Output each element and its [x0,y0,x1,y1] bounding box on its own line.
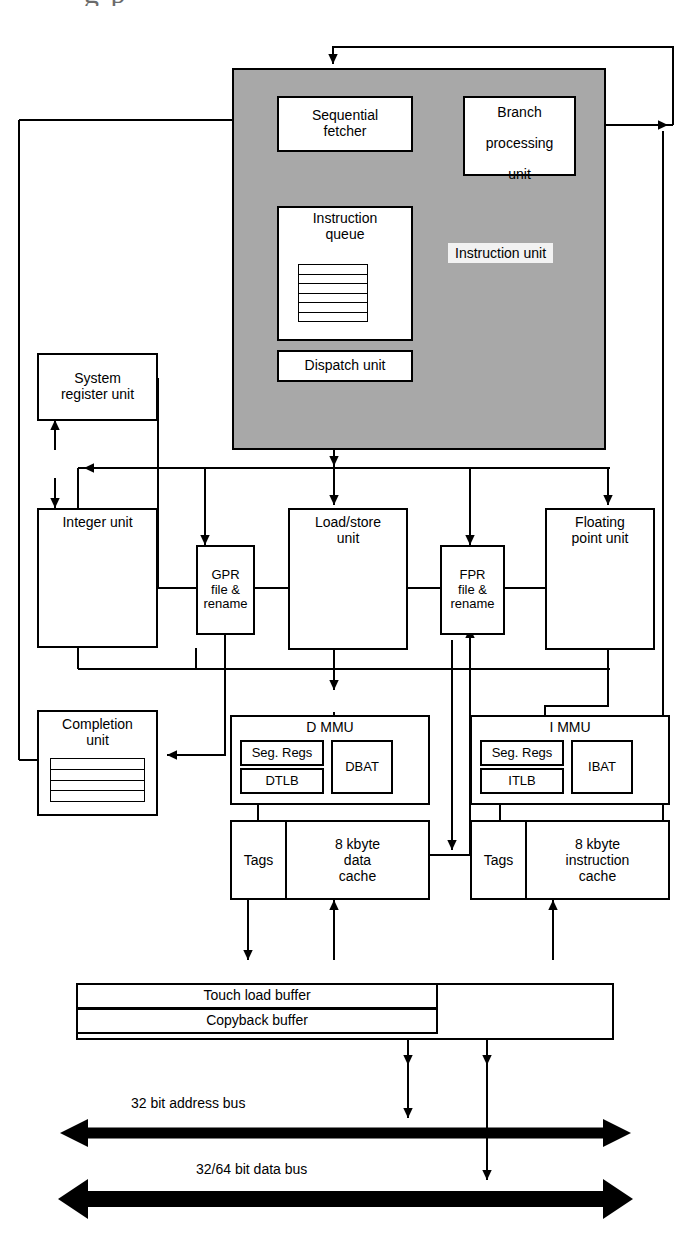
d-mmu-seg-regs-label: Seg. Regs [252,746,313,760]
branch-processing-unit-box[interactable]: Branch processing unit [463,96,576,176]
i-mmu-seg-regs-box[interactable]: Seg. Regs [480,740,564,766]
system-register-unit-label: System register unit [61,371,134,402]
address-bus-arrow [60,1119,631,1147]
i-tags-box[interactable]: Tags [470,820,527,900]
fpr-file-rename-box[interactable]: FPR file & rename [440,545,505,635]
dbat-box[interactable]: DBAT [331,740,393,794]
load-store-unit-box[interactable]: Load/store unit [288,508,408,650]
instruction-unit-label: Instruction unit [448,243,553,263]
d-mmu-label: D MMU [306,720,353,736]
d-tags-label: Tags [244,852,274,868]
load-store-unit-label: Load/store unit [315,513,381,546]
dispatch-unit-box[interactable]: Dispatch unit [277,350,413,382]
system-register-unit-box[interactable]: System register unit [37,353,158,421]
d-tags-box[interactable]: Tags [230,820,287,900]
dispatch-unit-label: Dispatch unit [305,358,386,374]
fpr-file-rename-label: FPR file & rename [450,568,494,612]
itlb-box[interactable]: ITLB [480,768,564,794]
copyback-buffer-label: Copyback buffer [206,1013,308,1029]
dtlb-box[interactable]: DTLB [240,768,324,794]
copyback-buffer-box[interactable]: Copyback buffer [76,1008,438,1034]
instruction-queue-label: Instruction queue [313,211,378,242]
instruction-queue-slots [298,264,368,322]
data-bus-arrow [58,1179,633,1219]
floating-point-unit-label: Floating point unit [572,513,629,546]
d-mmu-seg-regs-box[interactable]: Seg. Regs [240,740,324,766]
itlb-label: ITLB [508,774,535,788]
touch-load-buffer-box[interactable]: Touch load buffer [76,983,438,1009]
branch-processing-unit-label: Branch processing unit [486,89,554,183]
ibat-label: IBAT [588,760,616,774]
completion-unit-label: Completion unit [62,715,133,748]
sequential-fetcher-label: Sequential fetcher [312,108,378,139]
i-mmu-label: I MMU [549,720,590,736]
instruction-cache-box[interactable]: 8 kbyte instruction cache [525,820,670,900]
sequential-fetcher-box[interactable]: Sequential fetcher [277,96,413,152]
address-bus-label: 32 bit address bus [131,1095,245,1111]
completion-unit-slots [50,758,145,802]
gpr-file-rename-box[interactable]: GPR file & rename [196,545,255,635]
data-cache-label: 8 kbyte data cache [335,836,380,884]
ibat-box[interactable]: IBAT [571,740,633,794]
gpr-file-rename-label: GPR file & rename [203,568,247,612]
data-bus-label: 32/64 bit data bus [196,1161,307,1177]
integer-unit-box[interactable]: Integer unit [37,508,158,648]
dbat-label: DBAT [345,760,379,774]
caption-artifact: g p [84,0,214,6]
i-mmu-seg-regs-label: Seg. Regs [492,746,553,760]
data-cache-box[interactable]: 8 kbyte data cache [285,820,430,900]
diagram-canvas: g p [0,0,691,1234]
floating-point-unit-box[interactable]: Floating point unit [545,508,655,650]
i-tags-label: Tags [484,852,514,868]
dtlb-label: DTLB [265,774,298,788]
touch-load-buffer-label: Touch load buffer [203,988,310,1004]
instruction-cache-label: 8 kbyte instruction cache [566,836,630,884]
integer-unit-label: Integer unit [62,513,132,531]
